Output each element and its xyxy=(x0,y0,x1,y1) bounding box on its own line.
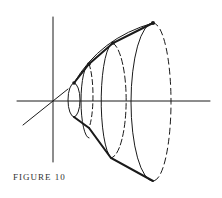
ellipse-1-back xyxy=(74,83,80,117)
ellipse-4-front xyxy=(131,23,153,181)
lower-chords xyxy=(74,117,153,181)
point-3 xyxy=(111,41,115,45)
upper-chords xyxy=(74,23,153,83)
generating-curve xyxy=(74,23,153,83)
point-1 xyxy=(72,81,76,85)
ellipse-4-back xyxy=(153,23,171,181)
figure-caption: FIGURE 10 xyxy=(13,172,66,182)
ellipse-2-back xyxy=(89,64,93,128)
depth-axis xyxy=(23,89,68,125)
point-4 xyxy=(151,21,155,25)
point-2 xyxy=(87,62,91,66)
cone-sequence-diagram xyxy=(0,0,222,198)
ellipse-1-front xyxy=(68,83,74,117)
